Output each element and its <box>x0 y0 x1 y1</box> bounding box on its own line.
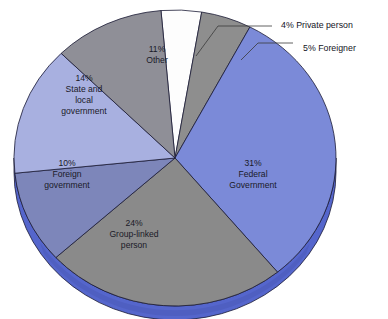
slice-label-line: government <box>44 180 90 190</box>
callout-label-private-person: 4% Private person <box>281 20 353 30</box>
slice-label-line: Group-linked <box>109 229 158 239</box>
slice-label-line: 24% <box>125 218 143 228</box>
slice-label-line: government <box>61 106 107 116</box>
slice-label-line: Federal <box>238 169 267 179</box>
pie-chart-svg: 31%FederalGovernment24%Group-linkedperso… <box>0 0 388 319</box>
slice-label-line: 31% <box>244 158 262 168</box>
callout-label-group: 4% Private person5% Foreigner <box>281 20 356 53</box>
slice-label-line: State and <box>66 84 103 94</box>
slice-label-line: person <box>121 240 147 250</box>
slice-label-line: Government <box>229 180 277 190</box>
slice-label-line: local <box>75 95 93 105</box>
slice-label-other: 11%Other <box>146 44 168 65</box>
slice-label-line: 14% <box>75 73 93 83</box>
callout-label-foreigner: 5% Foreigner <box>303 43 356 53</box>
pie-chart-figure: 31%FederalGovernment24%Group-linkedperso… <box>0 0 388 319</box>
slice-label-line: 10% <box>58 158 76 168</box>
slice-label-line: 11% <box>149 44 166 54</box>
slice-label-line: Other <box>146 55 168 65</box>
slice-label-line: Foreign <box>52 169 81 179</box>
